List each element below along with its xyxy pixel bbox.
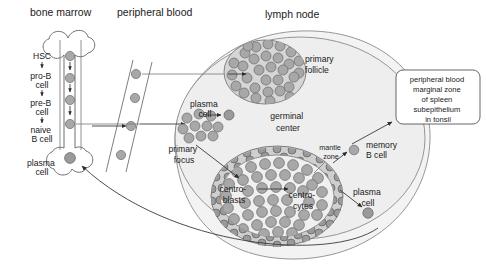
cell-plasma-lower — [363, 208, 373, 218]
cell-naive-b — [65, 119, 74, 128]
label-pre-b-cell: pre-B cell — [30, 98, 53, 117]
cell-hsc — [65, 51, 74, 60]
cell-pb-1 — [131, 69, 140, 78]
cell-pb-3 — [126, 121, 135, 130]
header-bone-marrow: bone marrow — [30, 6, 92, 18]
cell-pro-b — [65, 73, 74, 82]
bone-marrow-stage-labels: HSC pro-B cell pre-B cell naive B cell p… — [27, 51, 57, 177]
label-marrow-plasma-cell: plasma cell — [27, 158, 57, 177]
cell-pb-4 — [116, 150, 125, 159]
peripheral-blood-vessel — [106, 60, 152, 172]
header-peripheral-blood: peripheral blood — [117, 6, 192, 18]
label-centroblasts: centro- blasts — [219, 184, 248, 205]
header-lymph-node: lymph node — [265, 8, 319, 20]
label-hsc: HSC — [33, 51, 51, 61]
cell-pb-2 — [130, 93, 139, 102]
cell-pre-b — [65, 95, 74, 104]
diagram-canvas: bone marrow peripheral blood lymph node … — [0, 0, 486, 266]
b-cell-development-diagram: bone marrow peripheral blood lymph node … — [0, 0, 486, 266]
label-pro-b-cell: pro-B cell — [30, 71, 53, 90]
cell-memory-b — [349, 145, 359, 155]
destination-callout: peripheral blood marginal zone of spleen… — [396, 70, 480, 124]
cell-marrow-plasma — [65, 153, 76, 164]
label-naive-b-cell: naive B cell — [31, 125, 54, 144]
cell-plasma-upper — [224, 110, 234, 120]
